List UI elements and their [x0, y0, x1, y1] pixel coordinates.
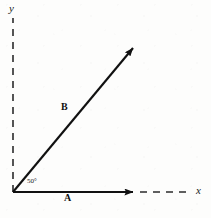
- y-axis-label: y: [9, 3, 14, 14]
- x-axis-label: x: [196, 185, 201, 196]
- vector-diagram-canvas: [0, 0, 211, 218]
- vector-b-arrow: [13, 48, 133, 192]
- vector-diagram-figure: y x A B 50°: [0, 0, 211, 218]
- angle-measure-label: 50°: [27, 178, 37, 185]
- vector-b-label: B: [61, 102, 68, 112]
- vector-a-label: A: [64, 193, 71, 203]
